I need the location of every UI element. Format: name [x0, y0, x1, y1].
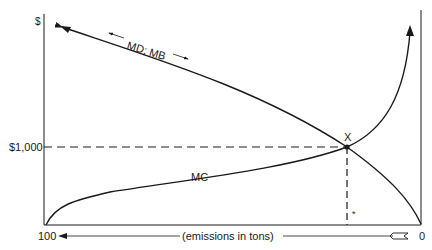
y-tick-1000: $1,000	[9, 142, 43, 153]
star-label: *	[352, 210, 356, 219]
md-mb-label-arrow-right	[173, 54, 188, 59]
point-x-label: X	[344, 132, 351, 143]
md-mb-curve	[62, 27, 421, 224]
x-right-label: 0	[419, 231, 425, 242]
intersection-point	[344, 144, 349, 149]
md-mb-label-arrow-left	[109, 33, 124, 38]
y-axis-label: $	[35, 17, 41, 27]
x-left-label: 100	[38, 231, 56, 242]
mc-arrowhead	[406, 25, 414, 36]
chart-canvas	[0, 0, 432, 250]
emissions-left-arrowhead	[58, 233, 67, 239]
mc-curve	[46, 32, 410, 225]
md-mb-arrowhead	[60, 26, 71, 33]
mc-label: MC	[191, 172, 208, 183]
x-axis-title: (emissions in tons)	[182, 231, 274, 242]
